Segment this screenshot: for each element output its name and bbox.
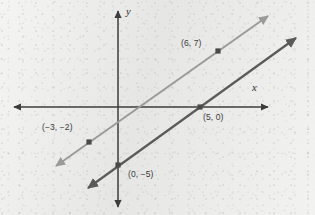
coordinate-plane-svg bbox=[0, 0, 315, 215]
x-axis-label: x bbox=[252, 82, 257, 93]
point-label-neg3-neg2: (−3, −2) bbox=[42, 122, 73, 132]
y-axis-label: y bbox=[126, 6, 131, 17]
point-marker-6-7 bbox=[215, 48, 220, 53]
point-marker-5-0 bbox=[197, 104, 202, 109]
point-marker-0-neg5 bbox=[115, 162, 120, 167]
point-label-6-7: (6, 7) bbox=[181, 38, 201, 48]
point-label-5-0: (5, 0) bbox=[203, 112, 223, 122]
graph-figure: x y (6, 7) (−3, −2) (5, 0) (0, −5) bbox=[0, 0, 315, 215]
point-marker-neg3-neg2 bbox=[86, 139, 91, 144]
point-label-0-neg5: (0, −5) bbox=[128, 169, 154, 179]
